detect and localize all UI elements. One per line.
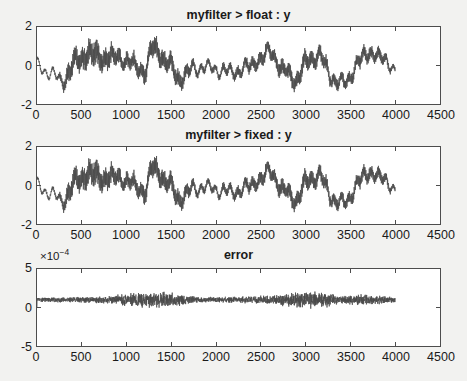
xtick-fixed-3500: 3500	[337, 228, 365, 242]
trace-svg-float	[37, 27, 440, 104]
xtick-error-500: 500	[71, 350, 92, 364]
xtick-float-1000: 1000	[112, 108, 140, 122]
xtick-float-2500: 2500	[247, 108, 275, 122]
xtick-mark	[81, 147, 82, 151]
xtick-mark	[305, 147, 306, 151]
xtick-mark	[350, 27, 351, 31]
xtick-mark	[350, 147, 351, 151]
trace-svg-fixed	[37, 147, 440, 224]
ytick-mark	[436, 65, 440, 66]
ytick-error-5: 5	[6, 261, 32, 275]
xtick-float-4000: 4000	[382, 108, 410, 122]
xtick-mark	[216, 342, 217, 346]
xtick-mark	[260, 147, 261, 151]
panel-title-float: myfilter > float : y	[36, 8, 441, 22]
xtick-mark	[216, 27, 217, 31]
ytick-float-0: 0	[6, 59, 32, 73]
panel-title-fixed: myfilter > fixed : y	[36, 128, 441, 142]
xtick-float-500: 500	[71, 108, 92, 122]
xtick-mark	[171, 220, 172, 224]
xtick-fixed-2500: 2500	[247, 228, 275, 242]
xtick-mark	[395, 269, 396, 273]
axes-fixed[interactable]	[36, 146, 441, 225]
ytick-fixed-minus2: -2	[6, 218, 32, 232]
xtick-mark	[81, 27, 82, 31]
xtick-mark	[126, 220, 127, 224]
ytick-error-minus5: -5	[6, 340, 32, 354]
xtick-mark	[126, 342, 127, 346]
ytick-float-2: 2	[6, 19, 32, 33]
xtick-fixed-0: 0	[33, 228, 40, 242]
xtick-float-4500: 4500	[427, 108, 455, 122]
xtick-float-0: 0	[33, 108, 40, 122]
xtick-mark	[260, 100, 261, 104]
xtick-mark	[171, 27, 172, 31]
xtick-mark	[81, 100, 82, 104]
ytick-mark	[37, 307, 41, 308]
xtick-mark	[305, 342, 306, 346]
xtick-fixed-500: 500	[71, 228, 92, 242]
xtick-mark	[81, 220, 82, 224]
xtick-float-3500: 3500	[337, 108, 365, 122]
xtick-error-3000: 3000	[292, 350, 320, 364]
xtick-mark	[126, 147, 127, 151]
y-axis-exponent-label: ×10−4	[40, 247, 69, 262]
xtick-error-2000: 2000	[202, 350, 230, 364]
data-trace-fixed	[37, 156, 395, 213]
ytick-float-minus2: -2	[6, 98, 32, 112]
xtick-error-4000: 4000	[382, 350, 410, 364]
xtick-mark	[305, 100, 306, 104]
xtick-mark	[305, 220, 306, 224]
xtick-float-3000: 3000	[292, 108, 320, 122]
xtick-mark	[171, 147, 172, 151]
xtick-error-0: 0	[33, 350, 40, 364]
xtick-mark	[395, 100, 396, 104]
xtick-mark	[350, 269, 351, 273]
xtick-mark	[395, 147, 396, 151]
xtick-mark	[260, 342, 261, 346]
xtick-fixed-1500: 1500	[157, 228, 185, 242]
xtick-mark	[305, 27, 306, 31]
xtick-mark	[81, 269, 82, 273]
xtick-mark	[216, 269, 217, 273]
trace-svg-error	[37, 269, 440, 346]
xtick-fixed-4500: 4500	[427, 228, 455, 242]
xtick-fixed-1000: 1000	[112, 228, 140, 242]
ytick-fixed-2: 2	[6, 139, 32, 153]
xtick-mark	[350, 100, 351, 104]
xtick-mark	[395, 220, 396, 224]
xtick-error-1500: 1500	[157, 350, 185, 364]
ytick-fixed-0: 0	[6, 179, 32, 193]
ytick-mark	[436, 307, 440, 308]
xtick-mark	[171, 342, 172, 346]
xtick-error-1000: 1000	[112, 350, 140, 364]
xtick-mark	[171, 269, 172, 273]
xtick-mark	[260, 27, 261, 31]
xtick-error-4500: 4500	[427, 350, 455, 364]
xtick-float-1500: 1500	[157, 108, 185, 122]
ytick-mark	[37, 65, 41, 66]
panel-title-error: error	[36, 248, 441, 262]
axes-error[interactable]	[36, 268, 441, 347]
xtick-mark	[171, 100, 172, 104]
xtick-mark	[126, 100, 127, 104]
xtick-error-3500: 3500	[337, 350, 365, 364]
xtick-mark	[81, 342, 82, 346]
xtick-mark	[350, 220, 351, 224]
xtick-mark	[126, 269, 127, 273]
ytick-mark	[436, 185, 440, 186]
xtick-float-2000: 2000	[202, 108, 230, 122]
xtick-fixed-3000: 3000	[292, 228, 320, 242]
xtick-mark	[216, 100, 217, 104]
xtick-mark	[216, 220, 217, 224]
axes-float[interactable]	[36, 26, 441, 105]
xtick-mark	[260, 269, 261, 273]
xtick-fixed-2000: 2000	[202, 228, 230, 242]
ytick-error-0: 0	[6, 301, 32, 315]
data-trace-float	[37, 36, 395, 93]
ytick-mark	[37, 185, 41, 186]
xtick-mark	[126, 27, 127, 31]
xtick-mark	[305, 269, 306, 273]
xtick-mark	[395, 342, 396, 346]
xtick-mark	[260, 220, 261, 224]
